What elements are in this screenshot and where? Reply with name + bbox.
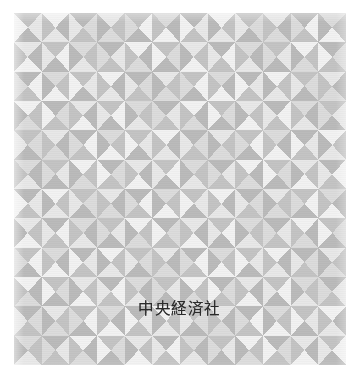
book-cover: 中央経済社 xyxy=(0,0,359,365)
publisher-imprint: 中央経済社 xyxy=(0,300,359,319)
